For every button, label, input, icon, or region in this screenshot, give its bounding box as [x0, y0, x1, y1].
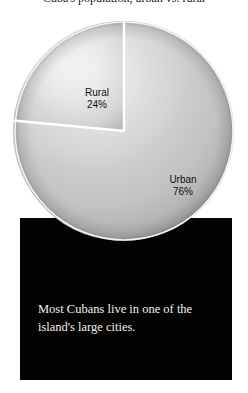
chart-title-clip: Cuba's population, urban vs. rural: [0, 0, 248, 7]
pie-label-urban-name: Urban: [169, 174, 196, 185]
pie-chart-svg: [10, 17, 230, 237]
pie-label-rural: Rural 24%: [62, 87, 132, 111]
pie-label-rural-percent: 24%: [62, 99, 132, 111]
chart-title: Cuba's population, urban vs. rural: [0, 0, 248, 6]
pie-label-rural-name: Rural: [85, 87, 109, 98]
pie-chart: Rural 24% Urban 76%: [10, 17, 230, 237]
caption-panel: Most Cubans live in one of the island's …: [20, 218, 232, 380]
caption-text: Most Cubans live in one of the island's …: [38, 300, 218, 336]
pie-label-urban: Urban 76%: [148, 174, 218, 198]
pie-label-urban-percent: 76%: [148, 186, 218, 198]
